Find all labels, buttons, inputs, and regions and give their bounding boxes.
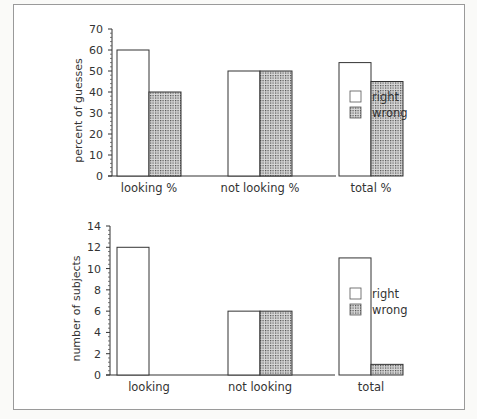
legend-swatch-wrong (350, 107, 361, 118)
y-tick-label: 10 (89, 149, 103, 162)
figure: 010203040506070percent of guesseslooking… (0, 0, 477, 419)
y-tick-label: 4 (94, 326, 101, 339)
subjects-chart: 02468101214number of subjectslookingnot … (70, 220, 408, 394)
y-tick-label: 6 (94, 305, 101, 318)
y-tick-label: 30 (89, 107, 103, 120)
y-tick-label: 12 (87, 241, 101, 254)
bar-wrong (149, 92, 181, 176)
bar-right (228, 311, 260, 375)
x-category-label: not looking (228, 380, 292, 394)
y-tick-label: 60 (89, 44, 103, 57)
y-tick-label: 20 (89, 128, 103, 141)
x-category-label: looking % (121, 181, 177, 195)
x-category-label: looking (128, 380, 170, 394)
legend-swatch-right (350, 91, 361, 102)
legend-label-right: right (372, 90, 400, 104)
x-category-label: total (358, 380, 384, 394)
y-tick-label: 10 (87, 263, 101, 276)
y-tick-label: 14 (87, 220, 101, 233)
x-category-label: total % (351, 181, 392, 195)
bar-wrong (260, 71, 292, 176)
bar-right (228, 71, 260, 176)
x-category-label: not looking % (221, 181, 300, 195)
bar-wrong (371, 364, 403, 375)
y-tick-label: 8 (94, 284, 101, 297)
y-axis-title: number of subjects (70, 255, 83, 361)
legend-label-wrong: wrong (372, 106, 408, 120)
y-tick-label: 50 (89, 65, 103, 78)
bar-right (339, 63, 371, 176)
legend-swatch-right (350, 288, 361, 299)
legend-label-right: right (372, 287, 400, 301)
y-tick-label: 70 (89, 23, 103, 36)
percent-chart: 010203040506070percent of guesseslooking… (72, 23, 408, 195)
y-tick-label: 0 (94, 369, 101, 382)
y-tick-label: 2 (94, 348, 101, 361)
legend-label-wrong: wrong (372, 303, 408, 317)
bar-right (339, 258, 371, 375)
bar-wrong (260, 311, 292, 375)
y-axis-title: percent of guesses (72, 58, 85, 163)
y-tick-label: 40 (89, 86, 103, 99)
bar-right (117, 247, 149, 375)
y-tick-label: 0 (96, 170, 103, 183)
bar-right (117, 50, 149, 176)
legend-swatch-wrong (350, 304, 361, 315)
